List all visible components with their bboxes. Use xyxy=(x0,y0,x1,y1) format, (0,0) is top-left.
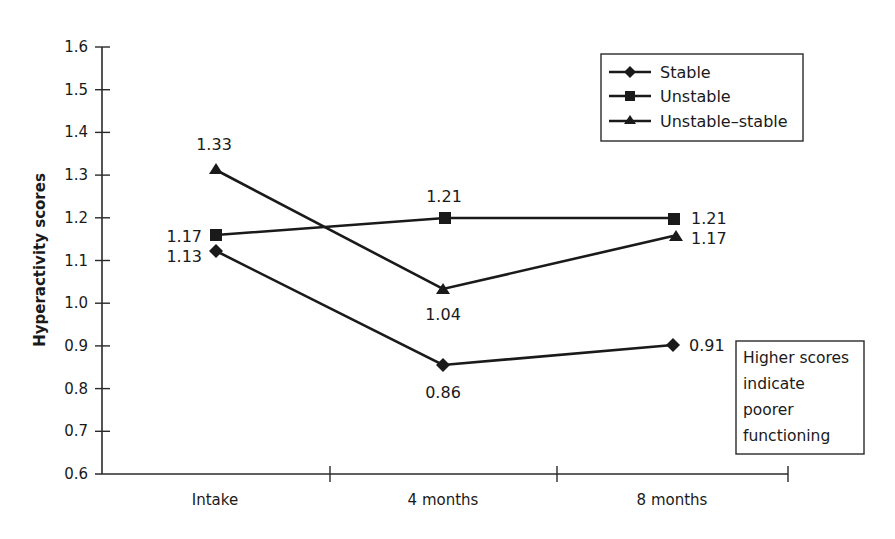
series-unstable xyxy=(210,212,680,241)
data-label: 1.21 xyxy=(691,209,727,228)
y-tick-label: 1.6 xyxy=(64,38,88,56)
x-tick-label: Intake xyxy=(192,491,238,509)
legend: Stable Unstable Unstable–stable xyxy=(601,54,803,141)
data-label: 1.13 xyxy=(166,247,202,266)
y-tick-label: 1.5 xyxy=(64,81,88,99)
data-label: 0.91 xyxy=(689,336,725,355)
legend-label: Unstable–stable xyxy=(660,112,788,131)
data-label: 1.04 xyxy=(425,305,461,324)
y-tick-labels: 1.6 1.5 1.4 1.3 1.2 1.1 1.0 0.9 0.8 0.7 … xyxy=(64,38,88,483)
y-tick-label: 0.7 xyxy=(64,422,88,440)
triangle-marker xyxy=(209,163,223,174)
x-tick-label: 4 months xyxy=(408,491,479,509)
diamond-marker xyxy=(436,358,450,372)
y-tick-label: 1.2 xyxy=(64,209,88,227)
annotation-line: poorer xyxy=(743,401,794,419)
square-marker xyxy=(439,212,451,224)
line-chart: 1.6 1.5 1.4 1.3 1.2 1.1 1.0 0.9 0.8 0.7 … xyxy=(0,0,895,539)
y-tick-label: 1.4 xyxy=(64,123,88,141)
diamond-marker xyxy=(666,338,680,352)
y-tick-label: 1.3 xyxy=(64,166,88,184)
y-tick-label: 1.0 xyxy=(64,294,88,312)
data-label: 0.86 xyxy=(425,383,461,402)
y-tick-label: 0.9 xyxy=(64,337,88,355)
y-tick-label: 0.8 xyxy=(64,380,88,398)
y-axis-title: Hyperactivity scores xyxy=(31,173,49,347)
diamond-marker xyxy=(209,244,223,258)
square-marker xyxy=(210,229,222,241)
y-tick-label: 1.1 xyxy=(64,252,88,270)
legend-label: Stable xyxy=(660,63,711,82)
annotation-box: Higher scores indicate poorer functionin… xyxy=(736,341,864,454)
series-unstable-stable xyxy=(209,163,683,294)
x-tick-labels: Intake 4 months 8 months xyxy=(192,491,708,509)
annotation-line: indicate xyxy=(743,375,805,393)
x-tick-label: 8 months xyxy=(637,491,708,509)
y-tick-label: 0.6 xyxy=(64,465,88,483)
legend-label: Unstable xyxy=(660,87,731,106)
annotation-line: functioning xyxy=(743,427,830,445)
square-icon xyxy=(625,91,635,101)
square-marker xyxy=(668,213,680,225)
data-label: 1.21 xyxy=(426,187,462,206)
data-label: 1.17 xyxy=(166,227,202,246)
annotation-line: Higher scores xyxy=(743,349,849,367)
data-label: 1.33 xyxy=(196,135,232,154)
data-label: 1.17 xyxy=(691,229,727,248)
